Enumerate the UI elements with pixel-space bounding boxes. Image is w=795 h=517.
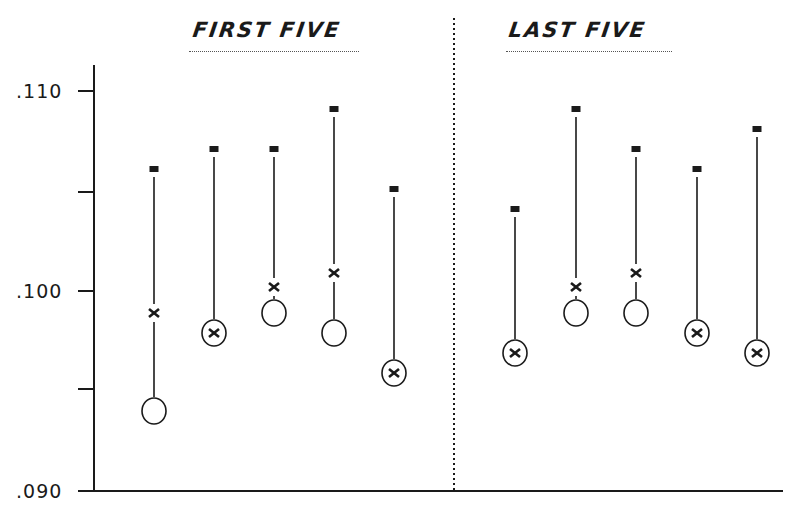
high-marker-square-icon [572,106,581,112]
low-marker-circle-icon [322,320,346,346]
high-marker-square-icon [210,146,219,152]
title-underline-first [189,51,359,52]
low-marker-circle-icon [624,300,648,326]
y-ticks [78,91,94,389]
high-marker-square-icon [511,206,520,212]
y-tick-label-100: .100 [16,280,62,302]
panel-title-last-five: LAST FIVE [507,18,648,42]
data-series [142,106,769,424]
mean-marker-x-icon [269,283,279,291]
y-tick-label-110: .110 [16,80,62,102]
mean-marker-x-icon [752,349,762,357]
low-marker-circle-icon [142,398,166,424]
mean-marker-x-icon [329,269,339,277]
mean-marker-x-icon [209,329,219,337]
y-tick-label-090: .090 [16,480,62,502]
high-marker-square-icon [330,106,339,112]
range-chart [0,0,795,517]
mean-marker-x-icon [389,369,399,377]
mean-marker-x-icon [692,329,702,337]
low-marker-circle-icon [564,300,588,326]
panel-title-first-five: FIRST FIVE [191,18,342,42]
mean-marker-x-icon [149,309,159,317]
high-marker-square-icon [270,146,279,152]
mean-marker-x-icon [571,283,581,291]
high-marker-square-icon [150,166,159,172]
high-marker-square-icon [390,186,399,192]
mean-marker-x-icon [631,269,641,277]
low-marker-circle-icon [262,300,286,326]
high-marker-square-icon [632,146,641,152]
high-marker-square-icon [753,126,762,132]
high-marker-square-icon [693,166,702,172]
mean-marker-x-icon [510,349,520,357]
title-underline-last [506,51,672,52]
